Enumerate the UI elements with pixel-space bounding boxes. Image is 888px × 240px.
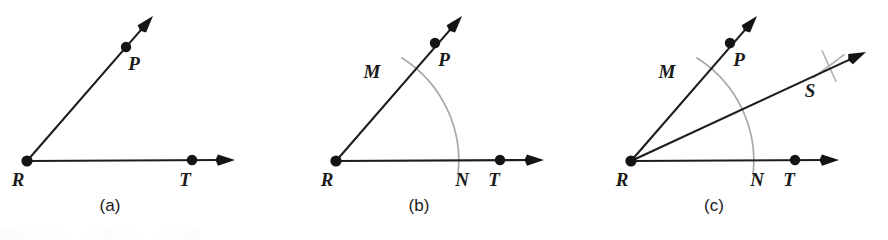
geometry-figure: PTR(a)PTMNR(b)PTMNSR(c): [0, 0, 888, 240]
panel-b-label-n: N: [454, 169, 470, 190]
panel-a-label-p: P: [127, 53, 140, 74]
panel-a-vertex-r-dot: [21, 155, 32, 166]
figure-canvas: PTR(a)PTMNR(b)PTMNSR(c): [0, 0, 888, 240]
panel-b: PTMNR(b): [320, 16, 544, 215]
panel-c-vertex-r-dot: [625, 155, 636, 166]
panel-a-ray-RP-arrowhead: [138, 16, 153, 33]
panel-b-caption: (b): [409, 196, 430, 215]
panel-c-label-m: M: [658, 61, 677, 82]
panel-c-caption: (c): [704, 196, 724, 215]
panel-c: PTMNSR(c): [615, 16, 866, 215]
panel-b-ray-RT-arrowhead: [525, 154, 544, 165]
panel-c-label-t: T: [783, 169, 796, 190]
panel-a-point-t-dot: [187, 155, 197, 165]
panel-b-label-t: T: [488, 169, 501, 190]
panel-a-point-p-dot: [121, 42, 131, 52]
panel-b-label-r: R: [320, 169, 334, 190]
panel-c-point-p-dot: [725, 38, 735, 48]
panel-c-label-p: P: [732, 49, 745, 70]
panel-b-point-p-dot: [430, 38, 440, 48]
panel-b-label-p: P: [437, 49, 450, 70]
panel-c-ray-RS-bisector-arrowhead: [848, 52, 866, 64]
panel-c-point-t-dot: [790, 155, 800, 165]
panel-c-ray-RP-arrowhead: [742, 16, 757, 33]
panel-a: PTR(a): [11, 16, 235, 215]
panel-b-ray-RP-arrowhead: [447, 16, 462, 33]
panel-b-point-t-dot: [495, 155, 505, 165]
panel-a-label-r: R: [11, 169, 25, 190]
panel-c-label-r: R: [615, 169, 629, 190]
panel-a-caption: (a): [100, 196, 121, 215]
panel-b-vertex-r-dot: [330, 155, 341, 166]
panel-c-label-s: S: [805, 80, 816, 101]
panel-c-label-n: N: [749, 169, 765, 190]
panel-c-ray-RT-arrowhead: [820, 154, 839, 165]
panel-a-label-t: T: [179, 169, 192, 190]
panel-a-ray-RT-arrowhead: [216, 154, 235, 165]
panel-b-label-m: M: [363, 61, 382, 82]
